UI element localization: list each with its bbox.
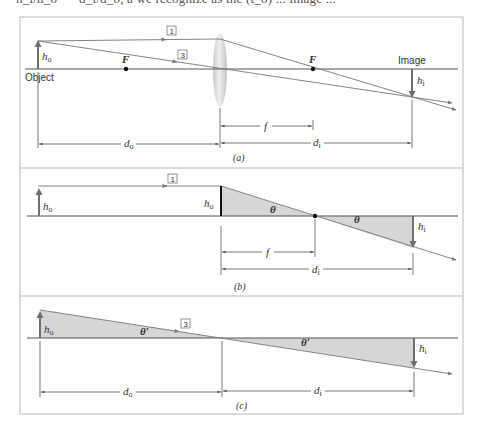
ho-label: ho	[42, 50, 52, 64]
hi-label: hi	[417, 74, 426, 88]
converging-lens	[213, 33, 227, 107]
caption-b: (b)	[234, 281, 246, 293]
panel-c: 3 ho θ′ θ′ hi do di (c)	[27, 310, 458, 412]
hi-label: hi	[419, 342, 428, 356]
ray-3-badge: 3	[181, 319, 190, 329]
caption-c: (c)	[236, 400, 248, 412]
focal-right-label: F	[308, 53, 317, 65]
svg-text:di: di	[314, 384, 323, 398]
svg-text:f: f	[266, 246, 271, 258]
svg-text:di: di	[313, 136, 322, 150]
shaded-triangle-right	[315, 216, 413, 248]
focal-length-dimension: f	[221, 120, 312, 132]
svg-text:do: do	[124, 137, 134, 151]
ho-label: ho	[43, 200, 53, 214]
image-arrow	[409, 69, 416, 98]
focal-point	[313, 214, 317, 218]
theta-right: θ	[354, 213, 360, 225]
focal-left-label: F	[121, 53, 130, 65]
caption-a: (a)	[233, 152, 245, 164]
object-label: Object	[25, 72, 54, 83]
panel-a: F F 1 3 ho Object Image hi f	[25, 26, 458, 164]
thin-lens-ray-diagram: F F 1 3 ho Object Image hi f	[0, 0, 480, 429]
focal-point-right	[311, 67, 315, 71]
image-distance-dimension: di	[222, 263, 412, 277]
object-distance-dimension: do	[41, 385, 221, 399]
panel-b: 1 ho ho θ θ hi f di (b)	[27, 174, 458, 293]
ray-1-badge: 1	[167, 26, 176, 36]
image-distance-dimension: di	[221, 136, 411, 150]
theta-prime-right: θ′	[301, 336, 310, 348]
ray-3-badge: 3	[178, 50, 187, 60]
image-label: Image	[398, 55, 426, 66]
svg-text:1: 1	[171, 175, 176, 184]
ray-1	[38, 39, 456, 110]
ho-lens-label: ho	[204, 197, 214, 211]
svg-text:1: 1	[170, 27, 175, 36]
svg-text:3: 3	[184, 320, 189, 329]
svg-text:do: do	[123, 385, 133, 399]
image-distance-dimension: di	[223, 384, 413, 398]
theta-left: θ	[270, 203, 276, 215]
theta-prime-left: θ′	[140, 325, 149, 337]
focal-length-dimension: f	[222, 246, 314, 258]
object-distance-dimension: do	[39, 137, 219, 151]
hi-label: hi	[418, 220, 427, 234]
object-arrow	[35, 40, 42, 69]
svg-text:3: 3	[181, 51, 186, 60]
svg-text:f: f	[264, 120, 269, 132]
focal-point-left	[124, 67, 128, 71]
svg-text:di: di	[312, 263, 321, 277]
ray-1-badge: 1	[168, 174, 177, 184]
object-arrow	[36, 188, 43, 216]
ray-3	[38, 41, 452, 103]
